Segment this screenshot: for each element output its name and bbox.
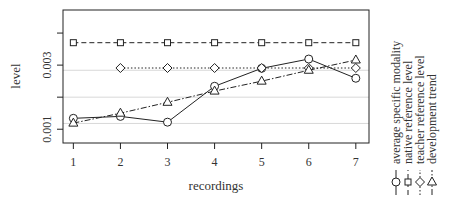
diamond-marker: [163, 64, 172, 73]
series-layer: [69, 40, 360, 126]
x-tick-label: 7: [353, 155, 359, 169]
x-tick-label: 6: [306, 155, 312, 169]
circle-marker: [392, 178, 400, 186]
square-marker: [306, 40, 312, 46]
square-marker: [405, 179, 411, 185]
circle-marker: [352, 74, 360, 82]
diamond-marker: [351, 64, 360, 73]
diamond-marker: [210, 64, 219, 73]
x-tick-label: 3: [165, 155, 171, 169]
circle-marker: [164, 118, 172, 126]
y-axis-label: level: [8, 63, 23, 89]
square-marker: [70, 40, 76, 46]
square-marker: [212, 40, 218, 46]
square-marker: [259, 40, 265, 46]
circle-marker: [305, 55, 313, 63]
x-axis-label: recordings: [189, 178, 244, 193]
x-tick-label: 1: [70, 155, 76, 169]
diamond-marker: [416, 178, 425, 187]
square-marker: [117, 40, 123, 46]
square-marker: [165, 40, 171, 46]
legend-label: development trend: [425, 74, 439, 164]
y-tick-label: 0.001: [40, 116, 54, 143]
line-chart: 0.0010.003 1234567 level recordings aver…: [0, 0, 464, 199]
triangle-marker: [351, 55, 360, 63]
diamond-marker: [116, 64, 125, 73]
legend-item: development trend: [425, 74, 439, 195]
triangle-marker: [428, 177, 437, 185]
triangle-marker: [163, 97, 172, 105]
series-native-reference-level: [70, 40, 358, 46]
legend: average specific modalitynative referenc…: [389, 41, 439, 195]
x-tick-label: 4: [212, 155, 218, 169]
square-marker: [353, 40, 359, 46]
x-tick-label: 5: [259, 155, 265, 169]
x-axis: 1234567: [70, 143, 358, 169]
y-tick-label: 0.003: [40, 52, 54, 79]
x-tick-label: 2: [117, 155, 123, 169]
y-axis: 0.0010.003: [40, 33, 63, 143]
